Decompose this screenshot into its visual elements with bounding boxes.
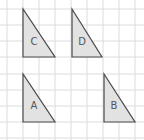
triangle-c-label: C (31, 36, 38, 47)
triangle-d-label: D (78, 36, 86, 47)
triangle-grid-diagram: C D A B (0, 0, 144, 140)
triangle-a-label: A (31, 100, 38, 111)
triangle-b-label: B (111, 100, 118, 111)
